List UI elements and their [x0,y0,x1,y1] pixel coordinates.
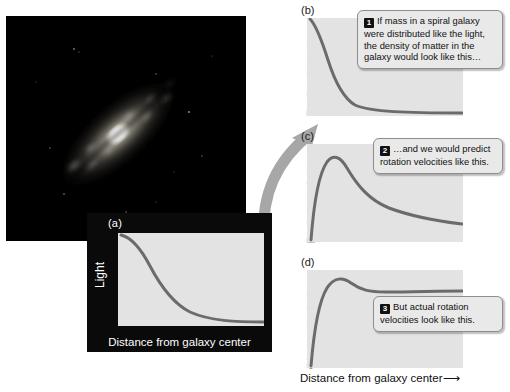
galaxy-rotation-figure: (a) Light Distance from galaxy center (b… [0,0,510,392]
bottom-axis-label: Distance from galaxy center⟶ [300,371,459,385]
callout-3-text: But actual rotation velocities look like… [380,301,475,325]
callout-1: 1If mass in a spiral galaxy were distrib… [357,10,503,69]
panel-a-ylabel: Light [93,245,107,305]
panel-a-letter: (a) [108,217,122,229]
panel-a: (a) Light Distance from galaxy center [87,213,272,352]
callout-2: 2…and we would predict rotation velociti… [373,138,503,174]
panel-a-curve [118,233,264,326]
spiral-galaxy-photo [6,16,246,241]
right-arrow-icon: ⟶ [443,372,459,384]
callout-3: 3But actual rotation velocities look lik… [373,296,503,332]
panel-d-letter: (d) [301,256,314,268]
panel-c-letter: (c) [301,130,314,142]
panel-b-letter: (b) [301,4,314,16]
callout-3-badge: 3 [380,304,390,314]
callout-2-badge: 2 [380,146,390,156]
panel-a-xlabel: Distance from galaxy center [87,336,272,348]
callout-2-text: …and we would predict rotation velocitie… [380,143,490,167]
galaxy-image-svg [6,16,246,241]
callout-1-badge: 1 [364,18,374,28]
bottom-axis-label-text: Distance from galaxy center [300,372,443,384]
callout-1-text: If mass in a spiral galaxy were distribu… [364,15,485,62]
panel-a-plot [118,233,264,326]
